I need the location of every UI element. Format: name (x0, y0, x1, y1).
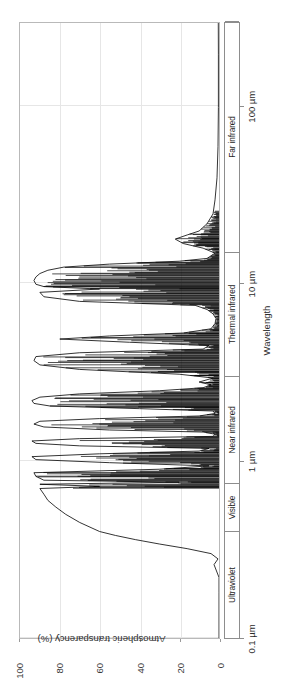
x-tick-label: 100 µm (246, 91, 257, 123)
y-tick-label: 80 (54, 663, 65, 681)
atmospheric-transparency-chart: 020406080100 Atmospheric transparency (%… (0, 0, 283, 681)
band-cell-visible: Visible (225, 483, 239, 531)
band-cell-ultraviolet: Ultraviolet (225, 531, 239, 638)
y-tick-label: 40 (134, 663, 145, 681)
band-cell-near-infrared: Near infrared (225, 376, 239, 483)
x-tick-mark (240, 283, 244, 284)
band-label: Far infrared (227, 116, 237, 158)
x-tick-label: 1 µm (246, 451, 257, 472)
band-label: Thermal infrared (227, 285, 237, 344)
transparency-curve (20, 23, 219, 638)
x-tick-mark (240, 461, 244, 462)
band-label: Ultraviolet (227, 567, 237, 603)
band-label: Visible (227, 496, 237, 520)
x-axis-title: Wavelength (261, 22, 272, 639)
x-tick-label: 0.1 µm (246, 624, 257, 653)
y-tick-label: 100 (14, 663, 25, 681)
plot-inner (20, 23, 219, 638)
y-tick-label: 0 (215, 663, 226, 681)
y-tick-label: 20 (174, 663, 185, 681)
x-tick-mark (240, 106, 244, 107)
band-cell-thermal-infrared: Thermal infrared (225, 252, 239, 376)
plot-area (19, 22, 220, 639)
rotated-figure-wrapper: 020406080100 Atmospheric transparency (%… (0, 0, 283, 681)
x-tick-label: 10 µm (246, 271, 257, 298)
band-label: Near infrared (227, 406, 237, 453)
spectral-band-strip: UltravioletVisibleNear infraredThermal i… (224, 22, 240, 639)
x-tick-mark (240, 638, 244, 639)
band-cell-far-infrared: Far infrared (225, 21, 239, 252)
y-axis-title: Atmospheric transparency (%) (0, 634, 222, 645)
y-tick-label: 60 (94, 663, 105, 681)
